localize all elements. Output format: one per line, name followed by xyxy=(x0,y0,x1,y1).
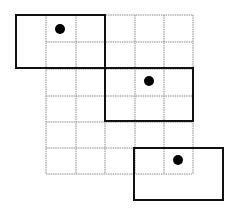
grid xyxy=(46,15,193,174)
window-2-outline xyxy=(105,68,193,121)
window-2-dot xyxy=(144,76,154,86)
window-3-dot xyxy=(173,155,183,165)
window-2 xyxy=(105,68,193,121)
grid-diagram xyxy=(0,0,238,215)
window-rectangles xyxy=(16,15,223,200)
window-1-dot xyxy=(55,24,65,34)
